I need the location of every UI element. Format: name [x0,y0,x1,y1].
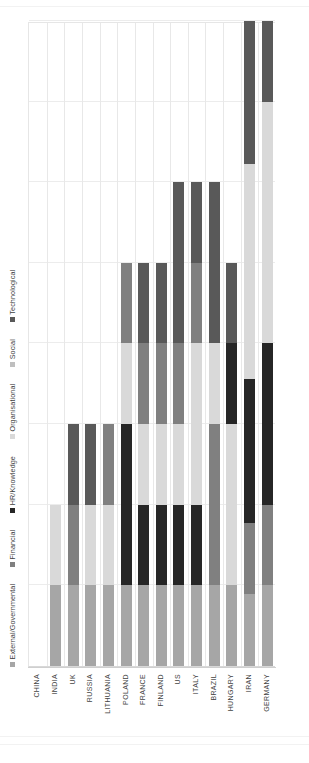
bar-segment-organisational[interactable] [121,344,132,425]
bar-segment-external-governmental[interactable] [262,585,273,666]
legend-label: Technological [8,270,17,315]
bar-segment-organisational[interactable] [226,424,237,585]
bar-segment-financial[interactable] [173,344,184,425]
bar-segment-technological[interactable] [156,263,167,344]
bar-segment-external-governmental[interactable] [191,585,202,666]
bar-segment-organisational[interactable] [156,424,167,505]
bar-segment-technological[interactable] [191,182,202,263]
bar-segment-external-governmental[interactable] [121,585,132,666]
bar-segment-organisational[interactable] [262,102,273,344]
bar-segment-external-governmental[interactable] [173,585,184,666]
legend-item-organisational[interactable]: Organisational [8,384,17,439]
category-label-us: US [172,674,183,684]
bar-segment-external-governmental[interactable] [138,585,149,666]
bar-segment-hr-knowledge[interactable] [156,505,167,586]
bar-finland[interactable] [156,21,167,666]
bar-segment-financial[interactable] [262,505,273,586]
bar-segment-technological[interactable] [209,182,220,343]
plot-area [28,22,275,667]
category-label-finland: FINLAND [155,674,166,706]
bar-segment-organisational[interactable] [244,164,255,379]
bar-segment-technological[interactable] [68,424,79,505]
legend-swatch-icon [10,508,15,513]
category-label-russia: RUSSIA [84,674,95,702]
bar-segment-technological[interactable] [262,21,273,102]
bar-segment-hr-knowledge[interactable] [244,379,255,522]
category-label-poland: POLAND [120,674,131,705]
bar-segment-technological[interactable] [173,182,184,343]
legend-label: Social [8,339,17,359]
legend-item-hr-knowledge[interactable]: HR/Knowledge [8,456,17,513]
bar-segment-organisational[interactable] [138,424,149,505]
bar-segment-technological[interactable] [244,21,255,164]
category-axis-line [28,667,276,668]
bar-segment-external-governmental[interactable] [209,585,220,666]
bar-segment-hr-knowledge[interactable] [191,505,202,586]
bar-segment-technological[interactable] [138,263,149,344]
bar-segment-financial[interactable] [121,263,132,344]
legend-swatch-icon [10,434,15,439]
bar-india[interactable] [50,21,61,666]
category-label-india: INDIA [49,674,60,694]
bar-segment-organisational[interactable] [209,344,220,425]
bar-segment-external-governmental[interactable] [103,585,114,666]
category-label-uk: UK [67,674,78,684]
bar-segment-external-governmental[interactable] [156,585,167,666]
category-label-lithuania: LITHUANIA [102,674,113,714]
category-axis-labels: CHINAINDIAUKRUSSIALITHUANIAPOLANDFRANCEF… [28,669,275,763]
bar-segment-financial[interactable] [138,344,149,425]
legend-item-social[interactable]: Social [8,339,17,367]
category-label-china: CHINA [31,674,42,698]
bar-segment-financial[interactable] [209,424,220,585]
category-label-germany: GERMANY [261,674,272,712]
legend-item-external-governmental[interactable]: External/Governmental [8,584,17,667]
bar-segment-financial[interactable] [68,505,79,586]
bar-segment-financial[interactable] [156,344,167,425]
bar-segment-hr-knowledge[interactable] [173,505,184,586]
bar-segment-hr-knowledge[interactable] [138,505,149,586]
legend-item-financial[interactable]: Financial [8,530,17,567]
legend-label: Organisational [8,384,17,432]
legend-label: External/Governmental [8,584,17,660]
bar-segment-technological[interactable] [85,424,96,505]
bar-segment-hr-knowledge[interactable] [121,424,132,585]
legend-label: Financial [8,530,17,560]
bar-segment-external-governmental[interactable] [50,585,61,666]
legend-item-technological[interactable]: Technological [8,270,17,322]
category-label-brazil: BRAZIL [208,674,219,701]
legend-swatch-icon [10,562,15,567]
bar-segment-external-governmental[interactable] [85,585,96,666]
bar-segment-organisational[interactable] [103,505,114,586]
bar-segment-technological[interactable] [226,263,237,344]
bar-france[interactable] [138,21,149,666]
bar-poland[interactable] [121,21,132,666]
bar-segment-organisational[interactable] [191,344,202,505]
bar-segment-financial[interactable] [244,523,255,595]
bar-italy[interactable] [191,21,202,666]
bar-segment-external-governmental[interactable] [68,585,79,666]
bar-segment-external-governmental[interactable] [244,594,255,666]
bar-iran[interactable] [244,21,255,666]
category-label-iran: IRAN [243,674,254,692]
bar-uk[interactable] [68,21,79,666]
legend-swatch-icon [10,662,15,667]
bar-hungary[interactable] [226,21,237,666]
bar-segment-hr-knowledge[interactable] [226,344,237,425]
value-gridline [29,20,275,21]
bar-germany[interactable] [262,21,273,666]
bar-brazil[interactable] [209,21,220,666]
bar-us[interactable] [173,21,184,666]
bar-segment-financial[interactable] [191,263,202,344]
bar-russia[interactable] [85,21,96,666]
chart-page: External/GovernmentalFinancialHR/Knowled… [0,0,309,763]
bar-segment-hr-knowledge[interactable] [262,344,273,505]
bar-segment-organisational[interactable] [50,505,61,586]
bar-china[interactable] [32,21,43,666]
legend-swatch-icon [10,362,15,367]
rotated-chart-wrapper: External/GovernmentalFinancialHR/Knowled… [0,0,309,763]
bar-segment-financial[interactable] [103,424,114,505]
bar-segment-organisational[interactable] [173,424,184,505]
bar-segment-organisational[interactable] [85,505,96,586]
bar-segment-external-governmental[interactable] [226,585,237,666]
bar-lithuania[interactable] [103,21,114,666]
